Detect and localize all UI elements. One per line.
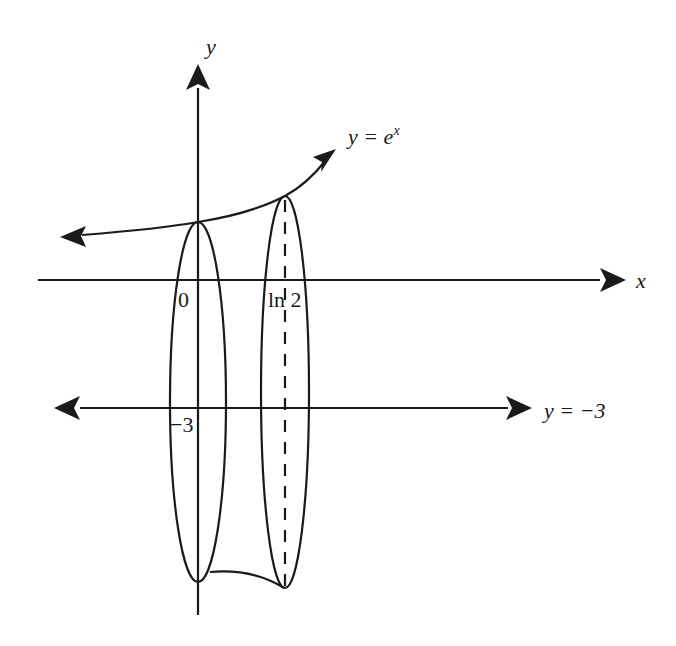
curve-right-arrow-icon xyxy=(313,149,336,172)
x-axis-arrow-icon xyxy=(600,268,626,292)
rotation-axis-line xyxy=(54,396,532,420)
ln2-label: ln 2 xyxy=(268,289,302,311)
origin-label: 0 xyxy=(178,289,189,311)
rotation-axis-label-text: y = −3 xyxy=(544,398,605,423)
disk-at-x-ln2 xyxy=(261,196,309,588)
rotation-axis-left-arrow-icon xyxy=(54,396,80,420)
y-axis-arrow-icon xyxy=(186,64,210,90)
y-axis-label: y xyxy=(206,36,216,58)
x-axis xyxy=(38,268,626,292)
rotation-axis-right-arrow-icon xyxy=(506,396,532,420)
curve-left-arrow-icon xyxy=(60,226,86,247)
solid-of-revolution-diagram: y x y = ex y = −3 0 ln 2 −3 xyxy=(0,0,676,646)
y-axis xyxy=(186,64,210,615)
x-axis-label: x xyxy=(636,270,646,292)
rotation-axis-label: y = −3 xyxy=(544,400,605,422)
curve-label-exponent: x xyxy=(393,123,399,138)
curve-label: y = ex xyxy=(348,124,400,148)
minus3-label: −3 xyxy=(170,414,193,436)
curve-label-prefix: y = e xyxy=(348,124,393,149)
solid-bottom-edge xyxy=(210,572,284,588)
